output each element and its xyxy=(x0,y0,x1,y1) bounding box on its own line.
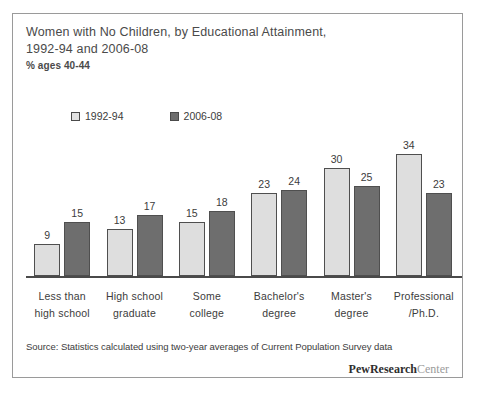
bar-value-label: 23 xyxy=(433,179,445,190)
bar-item: 25 xyxy=(354,132,380,276)
legend-label-1992-94: 1992-94 xyxy=(85,110,124,122)
bar-light xyxy=(179,222,205,276)
legend-swatch-icon-dark xyxy=(170,112,179,121)
bar-value-label: 15 xyxy=(186,208,198,219)
bar-item: 23 xyxy=(251,132,277,276)
bar-dark xyxy=(64,222,90,276)
x-axis-label-line: high school xyxy=(26,305,98,322)
bar-item: 15 xyxy=(179,132,205,276)
x-axis-label-line: Less than xyxy=(26,288,98,305)
x-axis-label-line: degree xyxy=(315,305,387,322)
bar-item: 34 xyxy=(396,132,422,276)
bar-item: 24 xyxy=(281,132,307,276)
title-line-1: Women with No Children, by Educational A… xyxy=(26,24,446,41)
pew-research-center-logo: PewResearchCenter xyxy=(349,362,449,377)
bar-light xyxy=(107,229,133,276)
bar-item: 13 xyxy=(107,132,133,276)
bar-light xyxy=(34,244,60,276)
legend-item-2006-08: 2006-08 xyxy=(170,110,223,122)
x-axis-label-line: graduate xyxy=(98,305,170,322)
bar-dark xyxy=(137,215,163,276)
bar-item: 9 xyxy=(34,132,60,276)
bar-value-label: 30 xyxy=(331,154,343,165)
x-axis-label-line: Master's xyxy=(315,288,387,305)
bar-group: 1518 xyxy=(179,132,235,276)
bar-light xyxy=(396,154,422,276)
legend-label-2006-08: 2006-08 xyxy=(184,110,223,122)
bar-item: 23 xyxy=(426,132,452,276)
x-axis-label-line: /Ph.D. xyxy=(388,305,460,322)
x-axis-label-line: Bachelor's xyxy=(243,288,315,305)
brand-name-bold: PewResearch xyxy=(349,362,417,376)
bar-value-label: 13 xyxy=(114,215,126,226)
x-axis-label-line: college xyxy=(171,305,243,322)
bar-item: 18 xyxy=(209,132,235,276)
bar-group: 2324 xyxy=(251,132,307,276)
x-axis-label-line: degree xyxy=(243,305,315,322)
x-axis-label: Less thanhigh school xyxy=(26,288,98,322)
legend-swatch-icon-light xyxy=(71,112,80,121)
bar-value-label: 24 xyxy=(288,176,300,187)
bar-value-label: 18 xyxy=(216,197,228,208)
x-axis-label: Professional/Ph.D. xyxy=(388,288,460,322)
bar-item: 30 xyxy=(324,132,350,276)
bar-group: 915 xyxy=(34,132,90,276)
x-axis-label-line: High school xyxy=(98,288,170,305)
title-line-2: 1992-94 and 2006-08 xyxy=(26,41,446,58)
x-axis-label: High schoolgraduate xyxy=(98,288,170,322)
bar-dark xyxy=(354,186,380,276)
x-axis-label-line: Some xyxy=(171,288,243,305)
chart-frame: Women with No Children, by Educational A… xyxy=(12,13,463,378)
bar-item: 15 xyxy=(64,132,90,276)
bar-item: 17 xyxy=(137,132,163,276)
legend-item-1992-94: 1992-94 xyxy=(71,110,124,122)
bar-light xyxy=(251,193,277,276)
bar-group: 1317 xyxy=(107,132,163,276)
x-axis-label: Somecollege xyxy=(171,288,243,322)
bar-dark xyxy=(426,193,452,276)
plot-area: 91513171518232430253423 xyxy=(26,132,460,276)
bar-group: 3423 xyxy=(396,132,452,276)
source-note: Source: Statistics calculated using two-… xyxy=(26,341,392,352)
chart-subtitle: % ages 40-44 xyxy=(26,60,90,71)
bar-dark xyxy=(209,211,235,276)
chart-title: Women with No Children, by Educational A… xyxy=(26,24,446,58)
brand-name-light: Center xyxy=(417,362,449,376)
bar-value-label: 17 xyxy=(144,201,156,212)
bar-group: 3025 xyxy=(324,132,380,276)
bar-value-label: 25 xyxy=(361,172,373,183)
x-axis-label-line: Professional xyxy=(388,288,460,305)
x-axis-label: Bachelor'sdegree xyxy=(243,288,315,322)
bar-light xyxy=(324,168,350,276)
bar-value-label: 15 xyxy=(71,208,83,219)
x-axis-line xyxy=(26,276,462,278)
bar-value-label: 9 xyxy=(44,230,50,241)
x-axis-label: Master'sdegree xyxy=(315,288,387,322)
bar-dark xyxy=(281,190,307,276)
x-axis-labels: Less thanhigh schoolHigh schoolgraduateS… xyxy=(26,288,460,330)
bar-value-label: 34 xyxy=(403,140,415,151)
chart-legend: 1992-94 2006-08 xyxy=(71,110,268,122)
bar-value-label: 23 xyxy=(258,179,270,190)
